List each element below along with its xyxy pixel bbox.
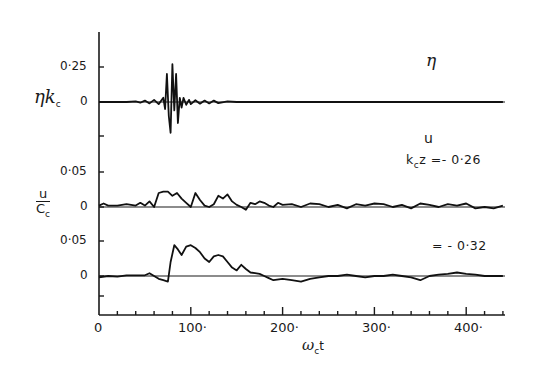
panel3-annotation: = - 0·32 bbox=[432, 238, 487, 253]
x-axis-ticks bbox=[117, 307, 503, 315]
panel2-annotation-depth: kcz =- 0·26 bbox=[406, 152, 481, 170]
panel2-tick-0: 0 bbox=[80, 199, 88, 213]
x-tick-200: 200· bbox=[270, 320, 299, 335]
x-tick-100: 100· bbox=[178, 320, 207, 335]
panel1-tick-0: 0 bbox=[80, 94, 88, 108]
x-tick-400: 400· bbox=[454, 320, 483, 335]
x-axis-label: ωct bbox=[302, 336, 324, 356]
eta-symbol: ηk bbox=[34, 86, 56, 107]
panel2-annotation-u: u bbox=[424, 130, 433, 146]
panel3-tick-0: 0 bbox=[80, 268, 88, 282]
x-tick-0: 0 bbox=[94, 320, 102, 335]
panel3-tick-005: 0·05 bbox=[60, 233, 87, 247]
panel1-annotation: η bbox=[426, 50, 436, 70]
chart-figure bbox=[0, 0, 534, 372]
panel2-ylabel: u Cc bbox=[36, 187, 50, 221]
eta-trace bbox=[99, 64, 503, 133]
panel1-ylabel: ηkc bbox=[34, 86, 61, 109]
panel1-tick-025: 0·25 bbox=[60, 59, 87, 73]
x-tick-300: 300· bbox=[362, 320, 391, 335]
panel2-tick-005: 0·05 bbox=[60, 164, 87, 178]
